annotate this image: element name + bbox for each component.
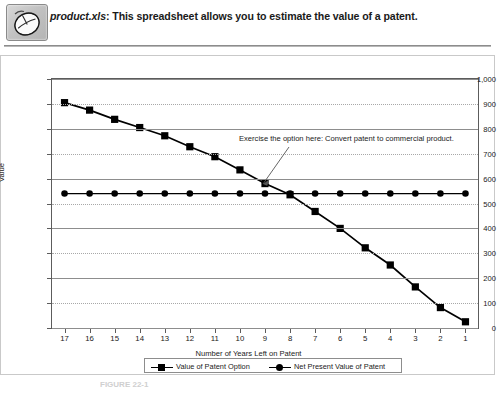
figure-caption: FIGURE 22-1 [100,380,400,392]
y-tick-mark [47,328,51,329]
x-tick-label: 1 [453,334,477,343]
y-tick-mark [47,228,51,229]
y-tick-mark [47,179,51,180]
y-tick-mark [47,104,51,105]
x-tick-label: 2 [428,334,452,343]
gridline [52,104,478,105]
data-point-marker [287,190,294,197]
x-tick-label: 5 [353,334,377,343]
data-point-marker [61,190,68,197]
x-tick-mark [215,329,216,333]
data-point-marker [412,190,419,197]
gridline [52,278,478,279]
legend-item-net-present-value-of-patent: Net Present Value of Patent [269,361,385,372]
data-point-marker [111,116,118,123]
y-tick-label: 1,000 [452,75,496,84]
data-point-marker [261,180,268,187]
x-tick-mark [65,329,66,333]
x-tick-label: 3 [403,334,427,343]
y-tick-label: 200 [452,274,496,283]
x-tick-mark [90,329,91,333]
y-tick-label: 100 [452,299,496,308]
x-tick-mark [365,329,366,333]
x-tick-mark [415,329,416,333]
data-point-marker [412,283,419,290]
x-tick-mark [140,329,141,333]
x-tick-label: 7 [303,334,327,343]
data-point-marker [387,261,394,268]
legend-item-value-of-patent-option: Value of Patent Option [151,361,250,372]
x-tick-mark [190,329,191,333]
y-tick-label: 700 [452,150,496,159]
x-tick-mark [165,329,166,333]
header-banner: product.xls: This spreadsheet allows you… [0,0,497,49]
spreadsheet-filename: product.xls [50,10,106,22]
x-tick-mark [390,329,391,333]
gridline [52,228,478,229]
y-tick-mark [47,204,51,205]
plot-area [51,78,479,329]
y-axis-label: Value [0,163,6,182]
x-tick-label: 10 [228,334,252,343]
x-tick-mark [265,329,266,333]
y-tick-mark [47,79,51,80]
x-tick-label: 6 [328,334,352,343]
x-tick-mark [315,329,316,333]
x-tick-mark [465,329,466,333]
x-tick-label: 9 [253,334,277,343]
gridline [52,303,478,304]
x-tick-mark [115,329,116,333]
data-point-marker [161,190,168,197]
data-point-marker [86,107,93,114]
data-point-marker [111,190,118,197]
x-tick-mark [240,329,241,333]
y-tick-label: 600 [452,175,496,184]
x-tick-label: 4 [378,334,402,343]
data-point-marker [337,190,344,197]
gridline [52,129,478,130]
header-description-text: This spreadsheet allows you to estimate … [112,10,417,22]
mouse-icon [6,4,48,41]
data-point-marker [362,190,369,197]
y-tick-label: 500 [452,200,496,209]
y-tick-mark [47,129,51,130]
y-tick-label: 800 [452,125,496,134]
data-point-marker [237,190,244,197]
data-point-marker [161,132,168,139]
patent-value-chart: Value Exercise the option here: Convert … [1,56,496,376]
data-point-marker [186,143,193,150]
y-tick-label: 300 [452,249,496,258]
data-point-marker [187,190,194,197]
figure-frame: Value Exercise the option here: Convert … [0,55,495,375]
x-tick-label: 15 [103,334,127,343]
gridline [52,179,478,180]
y-tick-mark [47,303,51,304]
data-point-marker [86,190,93,197]
x-tick-label: 13 [153,334,177,343]
legend-label-0: Value of Patent Option [176,362,250,371]
y-tick-label: 400 [452,224,496,233]
data-point-marker [136,190,143,197]
header-separator: : [106,10,109,22]
y-tick-mark [47,253,51,254]
y-tick-label: 900 [452,100,496,109]
x-tick-label: 14 [128,334,152,343]
gridline [52,204,478,205]
x-axis-label: Number of Years Left on Patent [1,349,496,358]
exercise-annotation: Exercise the option here: Convert patent… [239,134,454,143]
legend-swatch-square [151,363,173,372]
x-tick-mark [290,329,291,333]
data-point-marker [437,190,444,197]
data-point-marker [61,99,68,106]
legend-swatch-circle [269,363,291,372]
data-point-marker [136,124,143,131]
gridline [52,253,478,254]
header-divider [4,45,491,47]
data-point-marker [387,190,394,197]
data-point-marker [212,190,219,197]
x-tick-label: 12 [178,334,202,343]
x-tick-label: 8 [278,334,302,343]
y-tick-mark [47,154,51,155]
gridline [52,79,478,80]
data-point-marker [312,208,319,215]
